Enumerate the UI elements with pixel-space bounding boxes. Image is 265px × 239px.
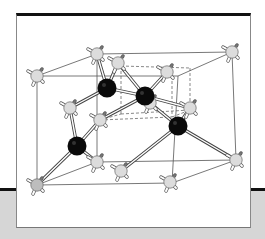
light-atom (88, 155, 103, 171)
cell-edge (97, 52, 232, 54)
cell-edge (37, 54, 97, 76)
atom-sphere (230, 154, 242, 166)
cell-edge (37, 183, 172, 185)
atom-sphere (94, 114, 106, 126)
atom-sphere (112, 57, 124, 69)
light-atom (223, 45, 238, 61)
atom-sphere (31, 70, 43, 82)
dark-atom (136, 87, 155, 106)
light-atom (28, 178, 43, 194)
dark-atom-highlight (102, 83, 106, 87)
light-atom (88, 47, 103, 63)
light-atom (227, 153, 242, 169)
atom-sphere (115, 165, 127, 177)
atom-sphere (91, 48, 103, 60)
cell-edge (232, 52, 236, 160)
light-atom (181, 101, 196, 117)
light-atom (112, 164, 127, 180)
dark-atom (68, 137, 87, 156)
atom-sphere (91, 156, 103, 168)
atom-sphere (31, 179, 43, 191)
crystal-lattice-diagram (0, 0, 265, 239)
atom-sphere (164, 176, 176, 188)
dark-atom (169, 117, 188, 136)
atomic-bonds (37, 54, 236, 185)
dark-atom-highlight (173, 121, 177, 125)
cell-edge (178, 52, 232, 76)
dashed-edge (100, 117, 172, 120)
atom-sphere (64, 102, 76, 114)
light-atom (61, 101, 76, 117)
dashed-edge (121, 66, 190, 68)
bond (121, 126, 178, 171)
dark-atom-highlight (140, 91, 144, 95)
cell-edge (172, 160, 236, 183)
atom-sphere (184, 102, 196, 114)
cell-edge (37, 162, 97, 185)
cell-edge (97, 160, 236, 162)
dark-atom (98, 79, 117, 98)
atom-sphere (226, 46, 238, 58)
atom-sphere (161, 66, 173, 78)
dark-atom-highlight (72, 141, 76, 145)
light-atom (28, 69, 43, 85)
